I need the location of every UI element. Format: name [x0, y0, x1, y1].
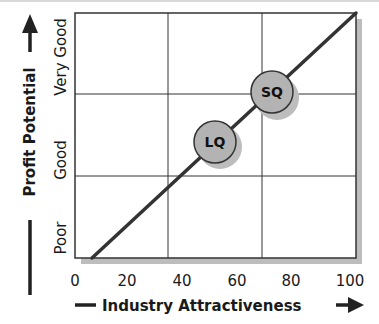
up-arrow-icon [22, 14, 38, 33]
x-axis-title: Industry Attractiveness [102, 297, 302, 315]
y-tick-good: Good [52, 140, 70, 180]
x-axis-ticks: 0 20 40 60 80 100 [70, 272, 364, 290]
x-tick: 100 [336, 272, 365, 290]
x-tick: 20 [117, 272, 136, 290]
x-tick: 60 [227, 272, 246, 290]
right-arrow-icon [348, 297, 364, 313]
chart: LQ SQ 0 20 40 60 80 100 Industry Attract… [0, 0, 379, 324]
bubble-label-lq: LQ [205, 134, 226, 150]
y-tick-poor: Poor [52, 221, 70, 255]
y-axis-ticks: Poor Good Very Good [52, 18, 70, 254]
y-axis-title: Profit Potential [21, 67, 39, 196]
x-tick: 40 [172, 272, 191, 290]
y-axis-title-group: Profit Potential [21, 14, 39, 295]
x-axis-title-group: Industry Attractiveness [75, 297, 364, 315]
y-tick-very-good: Very Good [52, 18, 70, 96]
bubble-label-sq: SQ [261, 84, 283, 100]
x-tick: 80 [281, 272, 300, 290]
x-tick: 0 [70, 272, 80, 290]
